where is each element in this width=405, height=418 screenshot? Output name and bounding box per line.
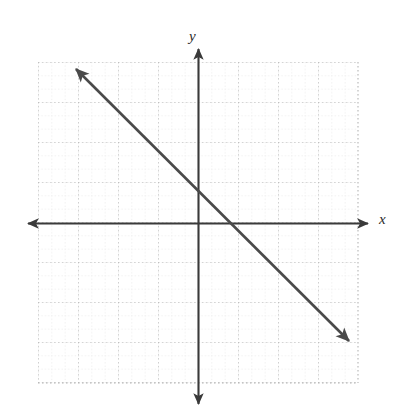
x-axis-label: x	[379, 212, 386, 227]
y-axis-label: y	[189, 29, 196, 44]
coordinate-plane	[0, 0, 405, 418]
graph-figure: y x	[0, 0, 405, 418]
